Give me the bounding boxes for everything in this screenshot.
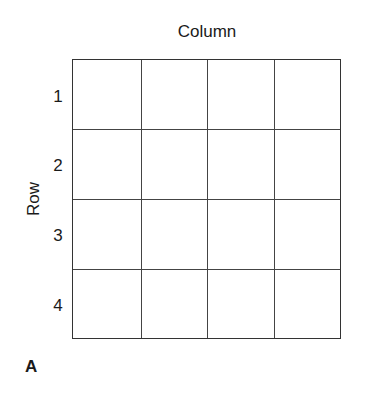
grid-cell-r4c3 — [208, 270, 275, 338]
grid-cell-r4c1 — [73, 270, 142, 338]
row-label-3: 3 — [50, 226, 66, 246]
grid-cell-r1c4 — [275, 60, 340, 130]
grid-cell-r2c3 — [208, 130, 275, 200]
grid-cell-r2c1 — [73, 130, 142, 200]
panel-label: A — [25, 357, 37, 377]
grid-cell-r4c4 — [275, 270, 340, 338]
grid-cell-r2c2 — [142, 130, 208, 200]
grid-cell-r1c1 — [73, 60, 142, 130]
grid-cell-r1c2 — [142, 60, 208, 130]
grid-4x4 — [72, 59, 341, 339]
column-axis-label: Column — [72, 22, 342, 42]
row-label-4: 4 — [50, 296, 66, 316]
grid-cell-r3c1 — [73, 200, 142, 270]
row-label-2: 2 — [50, 156, 66, 176]
row-axis-label: Row — [24, 182, 44, 216]
grid-cell-r1c3 — [208, 60, 275, 130]
grid-cell-r3c4 — [275, 200, 340, 270]
row-label-1: 1 — [50, 87, 66, 107]
grid-cell-r2c4 — [275, 130, 340, 200]
grid-cell-r4c2 — [142, 270, 208, 338]
grid-cell-r3c2 — [142, 200, 208, 270]
grid-cell-r3c3 — [208, 200, 275, 270]
